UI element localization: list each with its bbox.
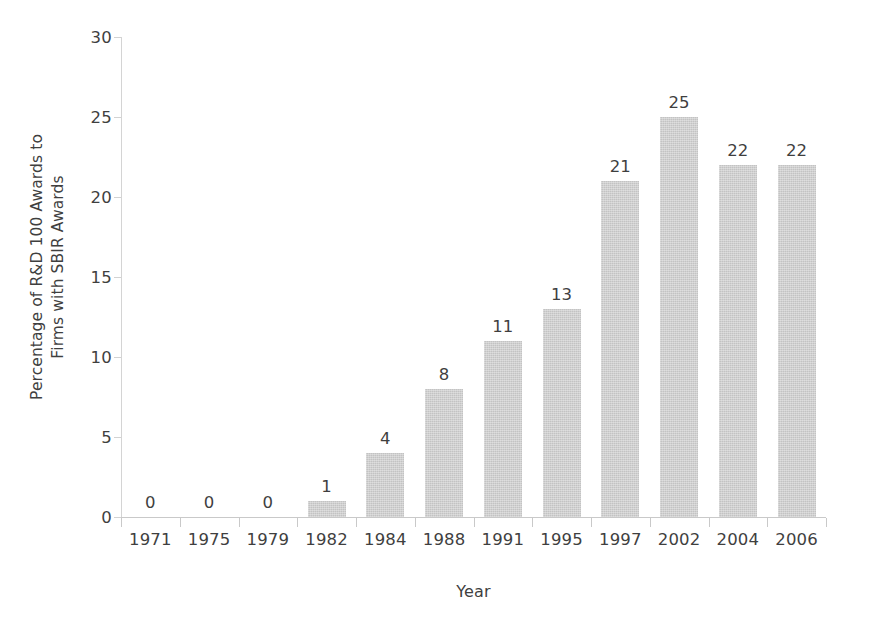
x-axis-tick-mark: [767, 518, 768, 527]
y-axis-tick-label: 10: [78, 348, 112, 367]
bar-group: 22: [709, 37, 768, 517]
bar: [484, 341, 522, 517]
x-axis-title: Year: [121, 582, 826, 601]
bar: [660, 117, 698, 517]
y-axis-tick-label: 5: [78, 428, 112, 447]
y-axis-tick-label: 30: [78, 28, 112, 47]
bar-group: 0: [239, 37, 298, 517]
bar-group: 4: [356, 37, 415, 517]
bar: [601, 181, 639, 517]
x-axis-tick-label: 1984: [364, 530, 407, 549]
bar-value-label: 0: [145, 493, 156, 512]
bar-chart: Percentage of R&D 100 Awards to Firms wi…: [0, 0, 875, 631]
y-axis-tick-mark: [114, 37, 121, 38]
x-axis-tick-mark: [709, 518, 710, 527]
bar: [308, 501, 346, 517]
y-axis-title: Percentage of R&D 100 Awards to Firms wi…: [20, 17, 76, 517]
x-axis-tick-mark: [121, 518, 122, 527]
x-axis-tick-label: 2006: [775, 530, 818, 549]
y-axis-tick-mark: [114, 117, 121, 118]
x-axis-tick-mark: [415, 518, 416, 527]
y-axis-tick-label: 0: [78, 508, 112, 527]
x-axis-tick-mark: [356, 518, 357, 527]
bar-group: 0: [121, 37, 180, 517]
x-axis-tick-label: 1988: [423, 530, 466, 549]
y-axis-tick-mark: [114, 437, 121, 438]
x-axis-tick-label: 1991: [481, 530, 524, 549]
x-axis-tick-label: 1982: [305, 530, 348, 549]
bar-group: 13: [532, 37, 591, 517]
bar-group: 25: [650, 37, 709, 517]
bar-value-label: 21: [610, 157, 631, 176]
bar-value-label: 0: [263, 493, 274, 512]
bar: [778, 165, 816, 517]
y-axis-tick-labels: 051015202530: [78, 0, 112, 631]
bar-value-label: 25: [668, 93, 689, 112]
bar-group: 11: [474, 37, 533, 517]
bar-value-label: 22: [727, 141, 748, 160]
x-axis-tick-labels: 1971197519791982198419881991199519972002…: [121, 530, 826, 560]
y-axis-tick-label: 25: [78, 108, 112, 127]
x-axis-tick-label: 1997: [599, 530, 642, 549]
bar: [425, 389, 463, 517]
bar-group: 8: [415, 37, 474, 517]
bar-value-label: 1: [321, 477, 332, 496]
y-axis-tick-mark: [114, 277, 121, 278]
x-axis-tick-mark: [474, 518, 475, 527]
x-axis-tick-label: 1995: [540, 530, 583, 549]
x-axis-tick-mark: [532, 518, 533, 527]
bar-group: 1: [297, 37, 356, 517]
bar: [543, 309, 581, 517]
y-axis-tick-mark: [114, 517, 121, 518]
x-axis-tick-mark: [180, 518, 181, 527]
x-axis-tick-label: 1975: [188, 530, 231, 549]
x-axis-tick-mark: [297, 518, 298, 527]
bar-value-label: 22: [786, 141, 807, 160]
x-axis-tick-mark: [239, 518, 240, 527]
plot-area: 000148111321252222: [121, 37, 826, 517]
x-axis-tick-label: 2002: [658, 530, 701, 549]
x-axis-tick-label: 1971: [129, 530, 172, 549]
y-axis-tick-mark: [114, 357, 121, 358]
x-axis-tick-mark: [826, 518, 827, 527]
bar-value-label: 11: [492, 317, 513, 336]
bar-value-label: 13: [551, 285, 572, 304]
x-axis-tick-mark: [650, 518, 651, 527]
x-axis-tick-label: 1979: [246, 530, 289, 549]
bar-group: 0: [180, 37, 239, 517]
x-axis-tick-label: 2004: [716, 530, 759, 549]
y-axis-tick-label: 20: [78, 188, 112, 207]
bar: [719, 165, 757, 517]
bar-value-label: 4: [380, 429, 391, 448]
bar-value-label: 8: [439, 365, 450, 384]
bar-group: 21: [591, 37, 650, 517]
x-axis-tick-mark: [591, 518, 592, 527]
y-axis-tick-mark: [114, 197, 121, 198]
bar-value-label: 0: [204, 493, 215, 512]
bar-group: 22: [767, 37, 826, 517]
y-axis-tick-label: 15: [78, 268, 112, 287]
bar: [366, 453, 404, 517]
